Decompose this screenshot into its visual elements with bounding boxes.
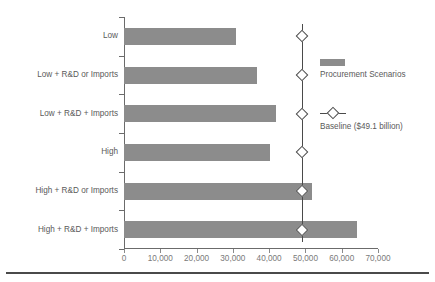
category-label-5: High + R&D or Imports xyxy=(0,186,118,195)
category-label-2: Low + R&D or Imports xyxy=(0,70,118,79)
bar-swatch-icon xyxy=(320,59,345,66)
footer-divider xyxy=(6,272,429,274)
x-tick-label: 40,000 xyxy=(257,254,282,263)
x-axis-tick xyxy=(269,249,270,253)
x-axis-tick xyxy=(378,249,379,253)
x-axis-tick xyxy=(305,249,306,253)
baseline-marker-2 xyxy=(296,69,309,82)
x-tick-label: 0 xyxy=(122,254,127,263)
baseline-marker-3 xyxy=(296,107,309,120)
bar-3 xyxy=(124,105,276,122)
y-axis-tick xyxy=(119,210,124,211)
category-label-6: High + R&D + Imports xyxy=(0,225,118,234)
y-axis-tick xyxy=(119,56,124,57)
legend-item-label-procurement: Procurement Scenarios xyxy=(320,70,406,79)
x-axis-tick xyxy=(160,249,161,253)
x-axis-tick xyxy=(197,249,198,253)
baseline-marker-1 xyxy=(296,30,309,43)
y-axis-tick xyxy=(119,17,124,18)
y-axis-tick xyxy=(119,133,124,134)
x-axis-tick xyxy=(124,249,125,253)
bar-1 xyxy=(124,28,236,45)
x-tick-label: 20,000 xyxy=(184,254,209,263)
category-label-3: Low + R&D + Imports xyxy=(0,109,118,118)
bar-6 xyxy=(124,221,357,238)
plot-area xyxy=(124,17,378,249)
x-tick-label: 70,000 xyxy=(365,254,390,263)
x-tick-label: 30,000 xyxy=(220,254,245,263)
legend-item-label-baseline: Baseline ($49.1 billion) xyxy=(320,122,403,131)
category-label-1: Low xyxy=(0,31,118,40)
y-axis-tick xyxy=(119,172,124,173)
x-axis-tick xyxy=(233,249,234,253)
category-label-4: High xyxy=(0,147,118,156)
bar-4 xyxy=(124,144,270,161)
x-axis-tick xyxy=(342,249,343,253)
x-tick-label: 60,000 xyxy=(329,254,354,263)
y-axis-tick xyxy=(119,94,124,95)
bar-2 xyxy=(124,67,257,84)
x-tick-label: 10,000 xyxy=(148,254,173,263)
baseline-marker-4 xyxy=(296,146,309,159)
bar-5 xyxy=(124,183,312,200)
procurement-scenarios-bar-chart: LowLow + R&D or ImportsLow + R&D + Impor… xyxy=(0,0,435,282)
x-tick-label: 50,000 xyxy=(293,254,318,263)
baseline-reference-line xyxy=(302,24,303,241)
